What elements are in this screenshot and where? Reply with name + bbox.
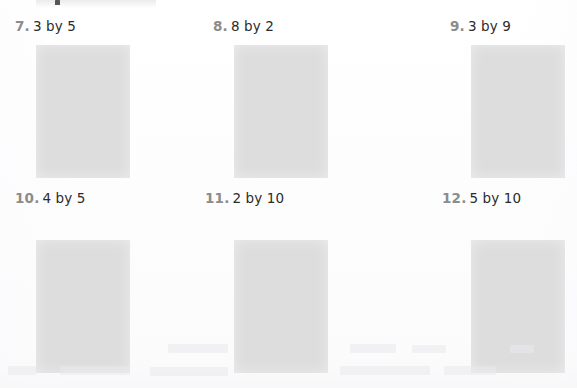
exercise-number-12: 12.: [442, 190, 467, 206]
answer-box-9[interactable]: [471, 45, 565, 178]
exercise-item-8: 8.8 by 2: [213, 20, 274, 34]
exercise-item-10: 10.4 by 5: [15, 192, 85, 206]
answer-box-12[interactable]: [471, 240, 565, 373]
exercise-number-7: 7.: [15, 18, 30, 34]
exercise-text-11: 2 by 10: [233, 190, 285, 206]
exercise-grid: 7.3 by 5 8.8 by 2 9.3 by 9 10.4 by 5 11.…: [0, 0, 577, 388]
exercise-text-9: 3 by 9: [468, 18, 511, 34]
answer-box-8[interactable]: [234, 45, 328, 178]
exercise-item-11: 11.2 by 10: [205, 192, 284, 206]
exercise-label-12: 12.5 by 10: [442, 192, 521, 206]
exercise-text-8: 8 by 2: [231, 18, 274, 34]
exercise-label-9: 9.3 by 9: [450, 20, 511, 34]
exercise-label-10: 10.4 by 5: [15, 192, 85, 206]
answer-box-11[interactable]: [234, 240, 328, 373]
exercise-number-8: 8.: [213, 18, 228, 34]
exercise-item-12: 12.5 by 10: [442, 192, 521, 206]
exercise-label-7: 7.3 by 5: [15, 20, 76, 34]
exercise-label-11: 11.2 by 10: [205, 192, 284, 206]
answer-box-7[interactable]: [36, 45, 130, 178]
exercise-number-9: 9.: [450, 18, 465, 34]
exercise-text-10: 4 by 5: [43, 190, 86, 206]
exercise-item-9: 9.3 by 9: [450, 20, 511, 34]
exercise-number-11: 11.: [205, 190, 230, 206]
exercise-item-7: 7.3 by 5: [15, 20, 76, 34]
worksheet-page: 7.3 by 5 8.8 by 2 9.3 by 9 10.4 by 5 11.…: [0, 0, 577, 388]
exercise-text-12: 5 by 10: [470, 190, 522, 206]
answer-box-10[interactable]: [36, 240, 130, 373]
exercise-text-7: 3 by 5: [33, 18, 76, 34]
exercise-label-8: 8.8 by 2: [213, 20, 274, 34]
exercise-number-10: 10.: [15, 190, 40, 206]
